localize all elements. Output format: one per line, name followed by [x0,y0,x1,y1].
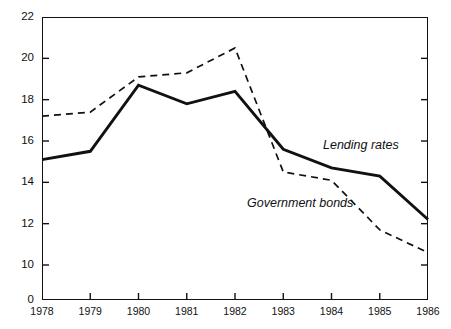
series-annotation-lending-rates: Lending rates [323,138,399,152]
series-annotation-government-bonds: Government bonds [247,196,353,210]
x-tick-label: 1984 [312,306,352,317]
x-tick-label: 1986 [408,306,448,317]
x-tick-label: 1982 [215,306,255,317]
x-tick-label: 1978 [22,306,62,317]
y-tick-label: 18 [8,94,34,106]
x-tick-label: 1985 [360,306,400,317]
y-tick-label: 12 [8,218,34,230]
x-axis-ticks [90,293,380,300]
x-tick-label: 1983 [263,306,303,317]
y-tick-label: 16 [8,135,34,147]
x-tick-label: 1980 [119,306,159,317]
y-axis-ticks [42,58,428,265]
y-tick-label: 22 [8,11,34,23]
y-tick-label: 10 [8,259,34,271]
chart-canvas [0,0,451,329]
y-tick-label: 0 [8,294,34,306]
line-chart: 222018161412100 197819791980198119821983… [0,0,451,329]
x-tick-label: 1979 [70,306,110,317]
y-tick-label: 14 [8,176,34,188]
y-tick-label: 20 [8,52,34,64]
x-tick-label: 1981 [167,306,207,317]
